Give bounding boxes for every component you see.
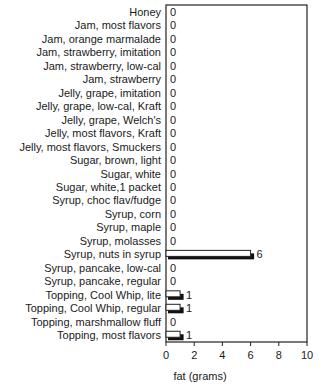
value-label: 0	[170, 168, 176, 180]
category-label: Jam, strawberry, low-cal	[43, 60, 161, 72]
bar	[166, 331, 180, 337]
x-axis-ticks: 0246810	[163, 342, 313, 361]
bar	[166, 291, 180, 297]
bar	[166, 250, 251, 256]
value-label: 6	[257, 248, 263, 260]
value-label: 0	[170, 87, 176, 99]
category-label: Sugar, white	[100, 168, 161, 180]
category-label: Syrup, pancake, low-cal	[44, 262, 161, 274]
category-label: Topping, marshmallow fluff	[31, 316, 162, 328]
value-label: 0	[170, 73, 176, 85]
category-label: Syrup, pancake, regular	[44, 275, 161, 287]
value-label: 0	[170, 19, 176, 31]
value-label: 1	[186, 302, 192, 314]
value-labels: 0000000000000000006001101	[170, 6, 263, 342]
value-label: 0	[170, 141, 176, 153]
category-label: Jelly, grape, imitation	[58, 87, 161, 99]
x-tick-label: 4	[219, 349, 225, 361]
x-tick-label: 8	[276, 349, 282, 361]
x-tick-label: 2	[191, 349, 197, 361]
value-label: 0	[170, 194, 176, 206]
value-label: 1	[186, 329, 192, 341]
category-label: Topping, most flavors	[57, 329, 161, 341]
x-tick-label: 6	[248, 349, 254, 361]
value-label: 0	[170, 316, 176, 328]
value-label: 0	[170, 275, 176, 287]
category-labels: HoneyJam, most flavorsJam, orange marmal…	[19, 6, 162, 342]
category-label: Syrup, maple	[96, 221, 161, 233]
category-label: Syrup, nuts in syrup	[64, 248, 161, 260]
category-label: Sugar, white,1 packet	[56, 181, 161, 193]
category-label: Jelly, most flavors, Kraft	[45, 127, 161, 139]
value-label: 1	[186, 289, 192, 301]
category-label: Jam, strawberry	[83, 73, 162, 85]
category-label: Sugar, brown, light	[70, 154, 161, 166]
category-label: Syrup, corn	[105, 208, 161, 220]
value-label: 0	[170, 114, 176, 126]
category-label: Jelly, grape, low-cal, Kraft	[36, 100, 161, 112]
category-label: Syrup, choc flav/fudge	[52, 194, 161, 206]
value-label: 0	[170, 154, 176, 166]
category-label: Jelly, most flavors, Smuckers	[19, 141, 161, 153]
category-label: Jam, strawberry, imitation	[37, 46, 162, 58]
value-label: 0	[170, 127, 176, 139]
value-label: 0	[170, 6, 176, 18]
value-label: 0	[170, 262, 176, 274]
category-label: Topping, Cool Whip, lite	[45, 289, 161, 301]
category-label: Jam, most flavors	[75, 19, 162, 31]
value-label: 0	[170, 221, 176, 233]
category-label: Jam, orange marmalade	[42, 33, 161, 45]
value-label: 0	[170, 181, 176, 193]
value-label: 0	[170, 33, 176, 45]
x-tick-label: 0	[163, 349, 169, 361]
value-label: 0	[170, 208, 176, 220]
value-label: 0	[170, 100, 176, 112]
value-label: 0	[170, 235, 176, 247]
bar	[166, 304, 180, 310]
x-tick-label: 10	[301, 349, 313, 361]
category-label: Honey	[129, 6, 161, 18]
category-label: Syrup, molasses	[80, 235, 162, 247]
category-label: Topping, Cool Whip, regular	[25, 302, 161, 314]
category-label: Jelly, grape, Welch's	[61, 114, 161, 126]
value-label: 0	[170, 46, 176, 58]
bar-chart: HoneyJam, most flavorsJam, orange marmal…	[0, 0, 319, 385]
value-label: 0	[170, 60, 176, 72]
x-axis-title: fat (grams)	[173, 370, 226, 382]
bars	[166, 250, 254, 340]
